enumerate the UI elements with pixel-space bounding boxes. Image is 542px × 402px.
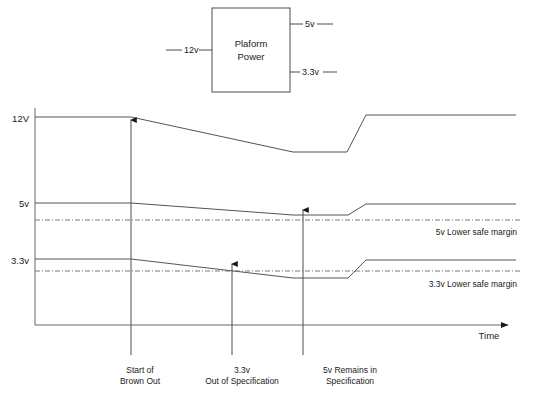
platform-power-title-line1: Plaform bbox=[235, 38, 268, 49]
callout-2-line2: Out of Specification bbox=[205, 376, 279, 386]
trace-33v bbox=[35, 259, 516, 278]
power-brownout-diagram: Plaform Power 12v 5v 3.3v Time 12V 5v 3. bbox=[0, 0, 542, 402]
chart-axes-group: Time bbox=[35, 108, 508, 341]
trace-12v bbox=[35, 115, 516, 152]
trace-5v bbox=[35, 203, 516, 215]
platform-power-title-line2: Power bbox=[238, 51, 265, 62]
callout-3-line2: Specification bbox=[326, 376, 374, 386]
x-axis-label-time: Time bbox=[479, 330, 500, 341]
platform-power-box bbox=[212, 8, 290, 92]
output-label-33v: 3.3v bbox=[302, 67, 320, 77]
safe-margin-lines-group: 5v Lower safe margin 3.3v Lower safe mar… bbox=[35, 220, 520, 289]
y-label-5v: 5v bbox=[19, 198, 29, 209]
callout-3-line1: 5v Remains in bbox=[323, 365, 377, 375]
callout-1-line1: Start of bbox=[126, 365, 154, 375]
callout-1-line2: Brown Out bbox=[120, 376, 161, 386]
callout-2-line1: 3.3v bbox=[234, 365, 251, 375]
output-label-5v: 5v bbox=[305, 19, 315, 29]
platform-power-block-group: Plaform Power 12v 5v 3.3v bbox=[166, 8, 337, 92]
margin-label-5v: 5v Lower safe margin bbox=[436, 227, 518, 237]
voltage-traces-group bbox=[35, 115, 516, 278]
y-label-12v: 12V bbox=[12, 113, 30, 124]
y-axis-labels-group: 12V 5v 3.3v bbox=[11, 113, 30, 266]
y-label-33v: 3.3v bbox=[11, 255, 29, 266]
callout-arrows-group bbox=[131, 120, 303, 355]
input-label-12v: 12v bbox=[184, 45, 199, 55]
diagram-canvas: Plaform Power 12v 5v 3.3v Time 12V 5v 3. bbox=[0, 0, 542, 402]
callout-labels-group: Start of Brown Out 3.3v Out of Specifica… bbox=[120, 365, 377, 386]
margin-label-33v: 3.3v Lower safe margin bbox=[429, 279, 518, 289]
